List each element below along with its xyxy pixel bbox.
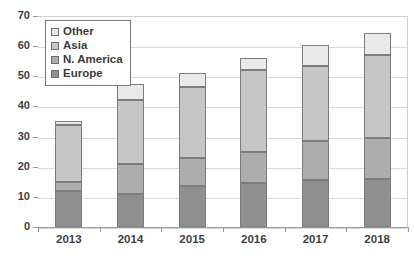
legend-item-label: Other (63, 26, 94, 38)
gridline (38, 168, 407, 169)
bar-segment[interactable] (302, 141, 329, 180)
x-axis-tick (38, 227, 39, 232)
gridline (38, 107, 407, 108)
legend-item[interactable]: Europe (51, 67, 123, 81)
y-axis-tick-label: 0 (0, 221, 30, 232)
x-axis-tick-label: 2013 (39, 234, 99, 246)
x-axis-tick (100, 227, 101, 232)
y-axis-tick (33, 106, 38, 107)
x-axis-tick (346, 227, 347, 232)
x-axis-tick-label: 2017 (286, 234, 346, 246)
legend-swatch-icon (51, 56, 59, 64)
x-axis-tick (285, 227, 286, 232)
legend-item-label: N. America (63, 54, 123, 66)
legend-item[interactable]: N. America (51, 53, 123, 67)
bar-segment[interactable] (179, 73, 206, 87)
bar-segment[interactable] (179, 87, 206, 158)
x-axis-tick-label: 2015 (162, 234, 222, 246)
bar-segment[interactable] (55, 125, 82, 182)
bar-segment[interactable] (364, 179, 391, 227)
legend-swatch-icon (51, 42, 59, 50)
y-axis-tick (33, 167, 38, 168)
bar-segment[interactable] (117, 194, 144, 227)
bar-segment[interactable] (179, 186, 206, 227)
bar-group[interactable] (302, 16, 329, 227)
y-axis-tick-label: 70 (0, 10, 30, 21)
chart-legend: OtherAsiaN. AmericaEurope (45, 20, 131, 86)
bar-segment[interactable] (240, 152, 267, 184)
x-axis-tick (408, 227, 409, 232)
legend-item[interactable]: Asia (51, 39, 123, 53)
stacked-bar-chart: 010203040506070 201320142015201620172018… (0, 0, 414, 260)
bar-segment[interactable] (179, 158, 206, 187)
bar-segment[interactable] (240, 70, 267, 151)
bar-segment[interactable] (117, 164, 144, 194)
x-axis-tick (161, 227, 162, 232)
bar-group[interactable] (240, 16, 267, 227)
bar-segment[interactable] (55, 121, 82, 125)
x-axis-tick-label: 2014 (101, 234, 161, 246)
y-axis-tick (33, 46, 38, 47)
y-axis-tick (33, 76, 38, 77)
y-axis-tick-label: 10 (0, 191, 30, 202)
bar-segment[interactable] (55, 191, 82, 227)
legend-item[interactable]: Other (51, 25, 123, 39)
y-axis-tick (33, 137, 38, 138)
bar-segment[interactable] (364, 33, 391, 56)
bar-segment[interactable] (302, 45, 329, 66)
gridline (38, 198, 407, 199)
bar-segment[interactable] (240, 183, 267, 227)
y-axis-tick-label: 40 (0, 100, 30, 111)
y-axis-tick (33, 16, 38, 17)
legend-item-label: Europe (63, 68, 103, 80)
bar-segment[interactable] (55, 182, 82, 191)
y-axis-tick-label: 20 (0, 161, 30, 172)
bar-segment[interactable] (117, 84, 144, 101)
y-axis-tick (33, 197, 38, 198)
legend-item-label: Asia (63, 40, 87, 52)
x-axis-tick (223, 227, 224, 232)
y-axis-tick-label: 50 (0, 70, 30, 81)
legend-swatch-icon (51, 28, 59, 36)
y-axis-tick-label: 30 (0, 131, 30, 142)
bar-segment[interactable] (117, 100, 144, 163)
bar-segment[interactable] (302, 66, 329, 141)
bar-segment[interactable] (240, 58, 267, 70)
bar-segment[interactable] (364, 138, 391, 179)
bar-group[interactable] (364, 16, 391, 227)
bar-segment[interactable] (302, 180, 329, 227)
x-axis-tick-label: 2018 (347, 234, 407, 246)
x-axis-tick-label: 2016 (224, 234, 284, 246)
bar-segment[interactable] (364, 55, 391, 138)
gridline (38, 138, 407, 139)
bar-group[interactable] (179, 16, 206, 227)
legend-swatch-icon (51, 70, 59, 78)
y-axis-tick-label: 60 (0, 40, 30, 51)
